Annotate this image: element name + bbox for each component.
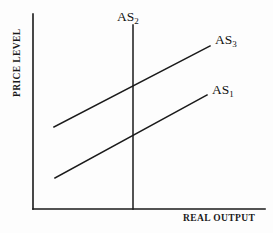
curve-label-as2: AS2 (117, 10, 139, 24)
x-axis-label: REAL OUTPUT (183, 214, 255, 224)
curve-label-as1: AS1 (212, 83, 234, 97)
curve-label-as3: AS3 (215, 33, 237, 47)
curve-as1-line (55, 95, 207, 178)
aggregate-supply-diagram: PRICE LEVEL REAL OUTPUT AS2 AS3 AS1 (0, 0, 273, 233)
curve-label-as3-subscript: 3 (232, 39, 237, 49)
curve-label-as1-text: AS (212, 82, 229, 97)
curve-label-as2-subscript: 2 (134, 16, 139, 26)
y-axis-label: PRICE LEVEL (13, 21, 23, 105)
curve-label-as3-text: AS (215, 32, 232, 47)
curve-label-as2-text: AS (117, 9, 134, 24)
curve-as3-line (54, 46, 210, 127)
curve-label-as1-subscript: 1 (229, 89, 234, 99)
